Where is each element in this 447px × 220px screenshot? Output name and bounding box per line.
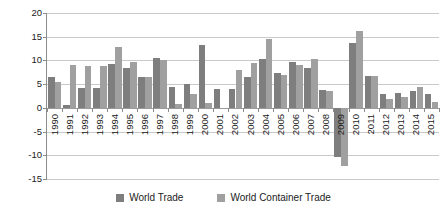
x-axis-label: 2005 xyxy=(276,114,286,135)
bar xyxy=(160,60,167,108)
bar-group xyxy=(137,13,152,179)
bar xyxy=(356,31,363,108)
bar-group xyxy=(409,13,424,179)
x-axis-label: 2014 xyxy=(411,114,421,135)
bar xyxy=(229,89,236,107)
bar-group xyxy=(47,13,62,179)
x-axis-label: 2012 xyxy=(381,114,391,135)
x-tick xyxy=(198,108,199,112)
bar-group xyxy=(92,13,107,179)
bar-group xyxy=(303,13,318,179)
bar xyxy=(259,59,266,107)
bar xyxy=(153,58,160,108)
y-axis-label: 20 xyxy=(31,8,42,18)
bar xyxy=(63,105,70,108)
x-axis-label: 1999 xyxy=(185,114,195,135)
legend-entry[interactable]: World Trade xyxy=(116,193,183,203)
x-axis-label: 2007 xyxy=(306,114,316,135)
y-tick--15 xyxy=(43,179,47,180)
bar-group xyxy=(379,13,394,179)
x-axis-label: 1996 xyxy=(140,114,150,135)
x-tick xyxy=(137,108,138,112)
y-axis-label: 15 xyxy=(31,32,42,42)
x-axis-label: 2001 xyxy=(215,114,225,135)
x-axis-label: 1994 xyxy=(110,114,120,135)
y-axis-label: -10 xyxy=(28,151,42,161)
bar xyxy=(169,87,176,108)
x-tick xyxy=(122,108,123,112)
bar xyxy=(274,73,281,108)
bar xyxy=(244,77,251,108)
bar xyxy=(371,76,378,108)
x-axis-label: 1997 xyxy=(155,114,165,135)
y-axis-label: 0 xyxy=(37,103,42,113)
x-tick xyxy=(409,108,410,112)
x-tick xyxy=(168,108,169,112)
bar xyxy=(349,43,356,108)
bar xyxy=(145,77,152,108)
bar-group xyxy=(288,13,303,179)
x-tick xyxy=(213,108,214,112)
x-axis-label: 2009 xyxy=(336,114,346,135)
bar xyxy=(123,68,130,108)
bar-group xyxy=(243,13,258,179)
bar xyxy=(184,84,191,108)
bar xyxy=(319,90,326,108)
bar xyxy=(410,91,417,108)
x-tick xyxy=(243,108,244,112)
x-tick xyxy=(62,108,63,112)
gridline--15 xyxy=(47,179,439,180)
y-axis-label: -5 xyxy=(34,127,42,137)
x-axis-label: 2008 xyxy=(321,114,331,135)
x-tick xyxy=(258,108,259,112)
plot-area: 20151050-5-10-15 19901991199219931994199… xyxy=(46,13,439,180)
x-axis-label: 2004 xyxy=(261,114,271,135)
bar xyxy=(236,70,243,107)
bar xyxy=(138,77,145,108)
bar xyxy=(432,102,439,108)
x-tick xyxy=(228,108,229,112)
bar-group xyxy=(198,13,213,179)
x-tick xyxy=(349,108,350,112)
x-tick xyxy=(288,108,289,112)
bar-group xyxy=(424,13,439,179)
bar xyxy=(395,93,402,108)
bar xyxy=(311,59,318,108)
x-axis-label: 1993 xyxy=(95,114,105,135)
x-tick xyxy=(379,108,380,112)
bar xyxy=(85,66,92,108)
bar xyxy=(199,45,206,108)
x-axis-label: 1991 xyxy=(65,114,75,135)
bar-group xyxy=(258,13,273,179)
bar xyxy=(296,65,303,108)
x-axis-label: 2010 xyxy=(351,114,361,135)
x-tick xyxy=(92,108,93,112)
bar-group xyxy=(349,13,364,179)
bar xyxy=(304,68,311,108)
x-tick xyxy=(424,108,425,112)
bar xyxy=(55,82,62,108)
x-axis-label: 2011 xyxy=(366,114,376,134)
bar-group xyxy=(394,13,409,179)
legend-label: World Container Trade xyxy=(230,193,330,203)
bar xyxy=(190,94,197,108)
x-tick xyxy=(318,108,319,112)
x-axis-label: 1995 xyxy=(125,114,135,135)
bar xyxy=(251,63,258,108)
x-axis-label: 1998 xyxy=(170,114,180,135)
bar-group xyxy=(168,13,183,179)
x-tick xyxy=(273,108,274,112)
bars-layer xyxy=(47,13,439,179)
legend-swatch-icon xyxy=(116,194,124,202)
bar-group xyxy=(183,13,198,179)
y-axis-label: 10 xyxy=(31,56,42,66)
legend-entry[interactable]: World Container Trade xyxy=(217,193,330,203)
legend-swatch-icon xyxy=(217,194,225,202)
x-axis-label: 2002 xyxy=(230,114,240,135)
bar-group xyxy=(364,13,379,179)
bar-group xyxy=(318,13,333,179)
bar xyxy=(417,87,424,108)
x-axis-label: 1990 xyxy=(50,114,60,135)
x-tick xyxy=(183,108,184,112)
x-tick xyxy=(153,108,154,112)
